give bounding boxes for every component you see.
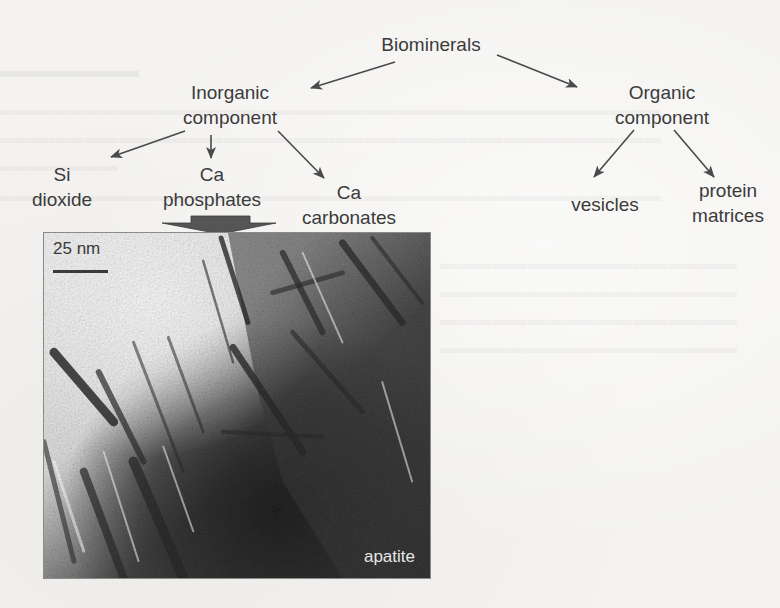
node-label-line: Ca [302, 180, 396, 205]
arrow-organic-to-protein-matrices [674, 130, 714, 177]
node-label-line: Organic [615, 80, 709, 105]
node-label-line: phosphates [163, 187, 261, 212]
apatite-micrograph: 25 nm apatite [43, 232, 431, 579]
node-label-line: vesicles [571, 192, 639, 217]
node-protein-matrices: protein matrices [692, 178, 764, 228]
node-label-line: Inorganic [183, 80, 277, 105]
node-inorganic-component: Inorganic component [183, 80, 277, 130]
node-label-line: carbonates [302, 205, 396, 230]
node-label-line: protein [692, 178, 764, 203]
arrow-inorganic-to-si-dioxide [111, 131, 185, 157]
material-label: apatite [364, 547, 415, 567]
micrograph-texture [44, 233, 430, 578]
node-organic-component: Organic component [615, 80, 709, 130]
show-through-line: ▬▬▬▬▬▬▬▬▬▬▬▬▬▬▬▬▬ [440, 282, 738, 302]
show-through-line: ▬▬▬▬▬▬▬▬▬▬▬▬▬▬▬▬▬▬▬▬▬▬▬▬▬▬▬▬▬▬▬▬▬▬▬▬▬▬ [0, 128, 661, 148]
node-biominerals: Biominerals [381, 32, 480, 57]
node-label-line: component [615, 105, 709, 130]
node-label-line: dioxide [32, 187, 92, 212]
scale-bar-label: 25 nm [53, 239, 100, 259]
show-through-heading: ▬▬▬▬▬▬▬ [0, 58, 139, 83]
node-ca-phosphates: Ca phosphates [163, 162, 261, 212]
node-vesicles: vesicles [571, 192, 639, 217]
node-label-line: component [183, 105, 277, 130]
node-si-dioxide: Si dioxide [32, 162, 92, 212]
node-label-line: matrices [692, 203, 764, 228]
scale-bar [53, 270, 108, 273]
arrow-biominerals-to-organic [497, 55, 577, 87]
show-through-line: ▬▬▬▬▬▬▬▬▬▬▬▬▬▬▬▬▬ [440, 338, 738, 358]
node-label-line: Ca [163, 162, 261, 187]
show-through-line: ▬▬▬▬▬▬▬▬▬▬▬▬▬▬▬▬▬▬▬▬▬▬▬▬▬▬▬▬▬▬▬▬▬▬▬▬▬▬ [0, 100, 661, 120]
show-through-line: ▬▬▬▬▬▬▬▬▬▬▬▬▬▬▬▬▬ [440, 310, 738, 330]
node-ca-carbonates: Ca carbonates [302, 180, 396, 230]
arrow-organic-to-vesicles [594, 130, 634, 177]
node-label-line: Si [32, 162, 92, 187]
arrow-biominerals-to-inorganic [311, 62, 395, 88]
node-label: Biominerals [381, 32, 480, 57]
show-through-line: ▬▬▬▬▬▬▬▬▬▬▬▬▬▬▬▬▬ [440, 254, 738, 274]
arrow-inorganic-to-ca-carbonates [278, 131, 324, 178]
